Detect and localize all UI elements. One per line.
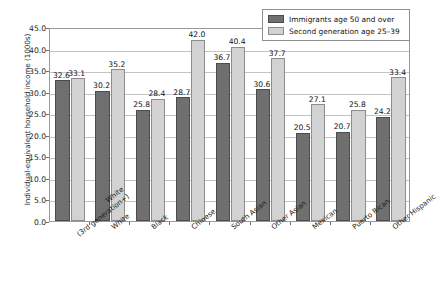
legend-swatch-icon-series0 (268, 15, 284, 23)
bar-value-label: 25.8 (349, 100, 366, 109)
y-tick-label: 20.0 (6, 131, 46, 140)
gridline (50, 51, 409, 52)
bar (151, 99, 165, 221)
y-tick-label: 15.0 (6, 153, 46, 162)
y-tick-mark (46, 222, 49, 223)
bar-value-label: 28.7 (173, 88, 190, 97)
bar-value-label: 25.8 (133, 100, 150, 109)
x-tick-mark (330, 222, 331, 225)
legend-item-second-generation: Second generation age 25–39 (268, 25, 405, 37)
bar-value-label: 33.4 (389, 68, 406, 77)
bar-value-label: 30.6 (254, 80, 271, 89)
y-tick-label: 0.0 (6, 218, 46, 227)
bar-value-label: 33.1 (68, 69, 85, 78)
bar-value-label: 42.0 (189, 30, 206, 39)
x-tick-mark (250, 222, 251, 225)
legend-label-series0: Immigrants age 50 and over (289, 15, 394, 24)
bar-value-label: 30.2 (93, 81, 110, 90)
bar (55, 80, 69, 221)
x-tick-mark (209, 222, 210, 225)
bar (231, 47, 245, 221)
bar-value-label: 28.4 (148, 89, 165, 98)
bar-value-label: 37.7 (269, 49, 286, 58)
x-tick-mark (89, 222, 90, 225)
y-tick-label: 5.0 (6, 196, 46, 205)
chart-legend: Immigrants age 50 and over Second genera… (262, 9, 410, 41)
y-tick-label: 40.0 (6, 45, 46, 54)
bar-value-label: 20.5 (294, 123, 311, 132)
bar-value-label: 40.4 (229, 37, 246, 46)
bar-value-label: 27.1 (309, 95, 326, 104)
bar (71, 78, 85, 221)
y-tick-label: 25.0 (6, 110, 46, 119)
bar (271, 58, 285, 221)
x-tick-mark (370, 222, 371, 225)
y-tick-label: 10.0 (6, 174, 46, 183)
legend-item-immigrants: Immigrants age 50 and over (268, 13, 405, 25)
x-tick-mark (129, 222, 130, 225)
x-tick-mark (169, 222, 170, 225)
bar (391, 77, 405, 221)
bar (176, 97, 190, 221)
bar (191, 40, 205, 221)
bar-value-label: 36.7 (213, 53, 230, 62)
y-tick-label: 45.0 (6, 24, 46, 33)
bar (136, 110, 150, 221)
bar (311, 104, 325, 221)
bar (351, 110, 365, 221)
y-tick-label: 35.0 (6, 67, 46, 76)
bar-value-label: 20.7 (334, 122, 351, 131)
legend-swatch-icon-series1 (268, 27, 284, 35)
bar-value-label: 24.2 (374, 107, 391, 116)
x-tick-mark (290, 222, 291, 225)
y-tick-label: 30.0 (6, 88, 46, 97)
legend-label-series1: Second generation age 25–39 (289, 27, 400, 36)
bar (336, 132, 350, 221)
bar-value-label: 35.2 (108, 60, 125, 69)
bar (216, 63, 230, 221)
